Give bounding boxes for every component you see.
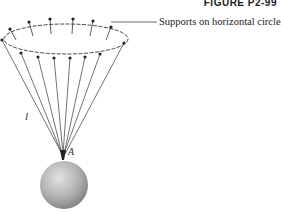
cables [2,40,124,154]
support-label: Supports on horizontal circle [159,16,281,27]
diagram-canvas [0,0,281,213]
back-support-ticks [10,19,111,40]
attachment-point-a [60,150,66,160]
support-circle [4,24,128,54]
point-a-label: A [68,146,74,157]
figure-title: FIGURE P2-99 [204,0,277,8]
cable-length-label: l [25,110,28,122]
sphere [40,161,88,209]
